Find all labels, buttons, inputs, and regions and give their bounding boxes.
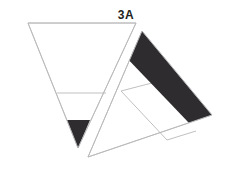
figure-container: 3A [0, 0, 234, 170]
right-triangle-inner-line-c [167, 131, 196, 140]
figure-label: 3A [9, 9, 234, 21]
figure-canvas [0, 0, 234, 170]
inverted-triangle-dark-tip [67, 120, 90, 148]
